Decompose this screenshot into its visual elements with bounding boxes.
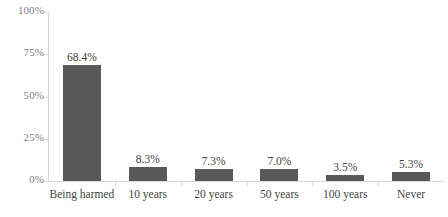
- bar-group: 7.3%: [181, 12, 247, 181]
- bar-value-label: 5.3%: [399, 158, 423, 170]
- bar-chart: 0%25%50%75%100% 68.4%8.3%7.3%7.0%3.5%5.3…: [0, 0, 448, 217]
- bar: [260, 169, 298, 181]
- bar: [326, 175, 364, 181]
- bar-value-label: 3.5%: [333, 161, 357, 173]
- bar-group: 5.3%: [378, 12, 444, 181]
- x-axis-separator: [378, 181, 379, 186]
- bar: [63, 65, 101, 181]
- bar-group: 3.5%: [312, 12, 378, 181]
- y-tick-label: 0%: [29, 173, 44, 185]
- x-axis-separator: [115, 181, 116, 186]
- category-label: Being harmed: [49, 188, 115, 200]
- bar-value-label: 7.3%: [202, 155, 226, 167]
- category-label: 20 years: [181, 188, 247, 200]
- plot-area: 68.4%8.3%7.3%7.0%3.5%5.3%: [49, 12, 444, 181]
- bar: [129, 167, 167, 181]
- category-label: 10 years: [115, 188, 181, 200]
- x-axis-separator: [312, 181, 313, 186]
- bar-group: 7.0%: [247, 12, 313, 181]
- y-tick-label: 100%: [18, 4, 44, 16]
- category-label: Never: [378, 188, 444, 200]
- bar-group: 8.3%: [115, 12, 181, 181]
- y-tick-label: 50%: [24, 89, 44, 101]
- x-axis-separator: [181, 181, 182, 186]
- y-tick-label: 75%: [24, 46, 44, 58]
- bar-group: 68.4%: [49, 12, 115, 181]
- bar-value-label: 8.3%: [136, 153, 160, 165]
- bar-value-label: 7.0%: [267, 155, 291, 167]
- bar: [195, 169, 233, 181]
- y-tick-label: 25%: [24, 131, 44, 143]
- category-label: 50 years: [247, 188, 313, 200]
- bar: [392, 172, 430, 181]
- bar-value-label: 68.4%: [67, 51, 97, 63]
- x-axis-separator: [247, 181, 248, 186]
- category-label: 100 years: [312, 188, 378, 200]
